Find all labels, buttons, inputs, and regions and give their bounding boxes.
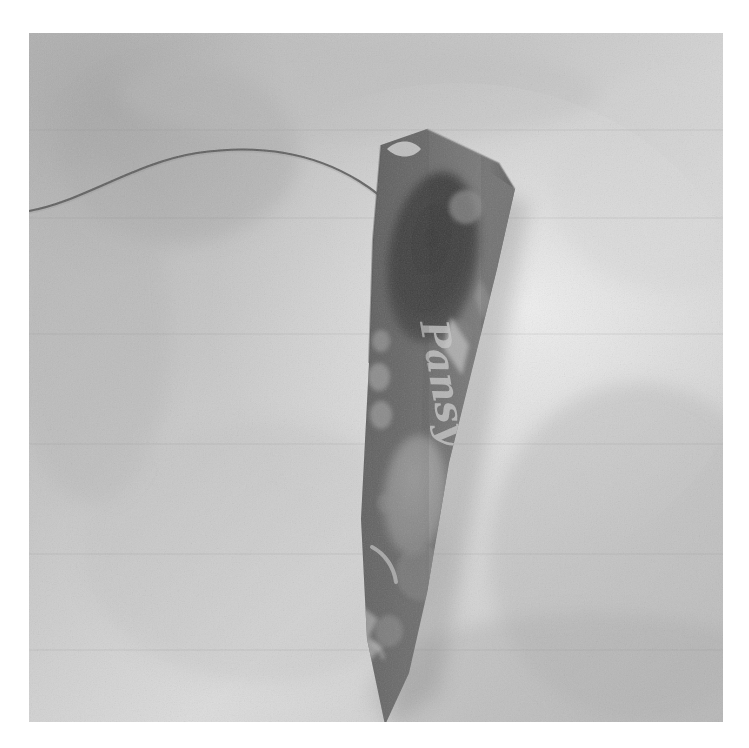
photo-scene: Pansy (29, 33, 723, 722)
film-grain-overlay (29, 33, 723, 722)
screenshot-canvas: Pansy (0, 0, 749, 748)
photograph: Pansy (29, 33, 723, 722)
